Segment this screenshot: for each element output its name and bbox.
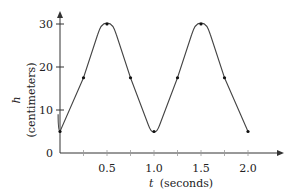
data-points — [58, 22, 249, 133]
data-point — [199, 22, 202, 25]
data-point — [58, 130, 61, 133]
data-point — [152, 130, 155, 133]
x-tick-label: 1.0 — [145, 162, 163, 175]
y-tick-label: 10 — [39, 104, 53, 117]
x-axis-unit: (seconds) — [160, 177, 213, 190]
x-axis-var: t — [149, 177, 154, 190]
data-curve — [58, 23, 248, 132]
y-tick-label: 20 — [39, 61, 53, 74]
x-tick-label: 2.0 — [239, 162, 257, 175]
data-point — [246, 130, 249, 133]
chart: 0.51.01.52.00102030 t (seconds) h (centi… — [0, 0, 292, 194]
y-axis-var: h — [10, 96, 23, 103]
axes — [57, 11, 284, 156]
data-point — [223, 76, 226, 79]
y-axis-arrow-icon — [57, 11, 63, 18]
ticks: 0.51.01.52.00102030 — [39, 18, 257, 175]
x-axis-arrow-icon — [277, 150, 284, 156]
data-point — [129, 76, 132, 79]
x-axis-label: t (seconds) — [149, 177, 213, 190]
y-tick-label: 0 — [46, 147, 53, 160]
x-tick-label: 0.5 — [98, 162, 116, 175]
h-curve — [58, 23, 248, 132]
data-point — [82, 76, 85, 79]
data-point — [176, 76, 179, 79]
data-point — [105, 22, 108, 25]
y-axis-unit: (centimeters) — [25, 62, 38, 137]
y-tick-label: 30 — [39, 18, 53, 31]
x-tick-label: 1.5 — [192, 162, 210, 175]
